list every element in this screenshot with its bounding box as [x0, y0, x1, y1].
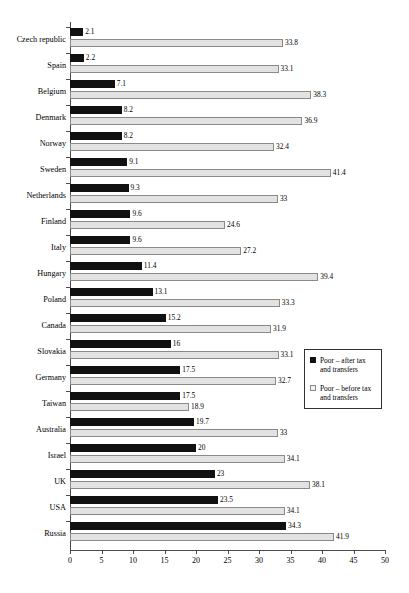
bar-before: 18.9	[70, 403, 189, 411]
bar-after: 7.1	[70, 80, 115, 88]
chart-row: Hungary11.439.4	[70, 261, 385, 287]
category-label: USA	[50, 504, 66, 512]
bar-after: 15.2	[70, 314, 166, 322]
bar-before: 36.9	[70, 117, 302, 125]
bar-value-label: 36.9	[304, 117, 317, 124]
legend-swatch-after	[310, 357, 316, 363]
value-axis-tick	[259, 550, 260, 554]
value-axis-tick-label: 20	[192, 557, 200, 565]
bar-value-label: 7.1	[117, 80, 126, 87]
bar-before: 31.9	[70, 325, 271, 333]
value-axis-tick	[133, 550, 134, 554]
bar-before: 33.1	[70, 65, 279, 73]
bar-value-label: 33.1	[281, 65, 294, 72]
category-label: Norway	[40, 140, 66, 148]
bar-value-label: 38.1	[312, 481, 325, 488]
value-axis-tick-label: 50	[381, 557, 389, 565]
value-axis-tick	[196, 550, 197, 554]
bar-before: 33.8	[70, 39, 283, 47]
bar-value-label: 33.3	[282, 299, 295, 306]
legend-entry: Poor – after tax and transfers	[310, 356, 377, 375]
bar-value-label: 19.7	[196, 418, 209, 425]
bar-value-label: 9.1	[129, 158, 138, 165]
value-axis-tick	[102, 550, 103, 554]
bar-value-label: 23	[217, 470, 224, 477]
chart-row: USA23.534.1	[70, 495, 385, 521]
bar-value-label: 31.9	[273, 325, 286, 332]
bar-value-label: 34.1	[287, 455, 300, 462]
category-label: Czech republic	[17, 36, 66, 44]
bar-value-label: 41.9	[336, 533, 349, 540]
bar-value-label: 24.6	[227, 221, 240, 228]
value-axis-tick-label: 15	[161, 557, 169, 565]
bar-value-label: 32.7	[278, 377, 291, 384]
bar-value-label: 38.3	[313, 91, 326, 98]
bar-value-label: 33	[280, 195, 287, 202]
bar-after: 2.1	[70, 28, 83, 36]
bar-value-label: 27.2	[243, 247, 256, 254]
value-axis-tick	[70, 550, 71, 554]
bar-before: 39.4	[70, 273, 318, 281]
bar-before: 38.3	[70, 91, 311, 99]
value-axis-tick-label: 35	[287, 557, 295, 565]
bar-before: 24.6	[70, 221, 225, 229]
category-label: Italy	[51, 244, 66, 252]
chart-row: Belgium7.138.3	[70, 79, 385, 105]
legend-entry: Poor – before tax and transfers	[310, 384, 377, 403]
category-label: Netherlands	[26, 192, 66, 200]
bar-value-label: 9.6	[132, 210, 141, 217]
chart-row: Poland13.133.3	[70, 287, 385, 313]
bar-after: 16	[70, 340, 171, 348]
value-axis-tick-label: 10	[129, 557, 137, 565]
chart-row: Denmark8.236.9	[70, 105, 385, 131]
bar-before: 33.3	[70, 299, 280, 307]
chart-row: Czech republic2.133.8	[70, 27, 385, 53]
bar-before: 33	[70, 429, 278, 437]
bar-value-label: 41.4	[333, 169, 346, 176]
legend-label: Poor – after tax and transfers	[320, 356, 366, 374]
bar-after: 17.5	[70, 366, 180, 374]
value-axis-tick-label: 40	[318, 557, 326, 565]
value-axis-tick-label: 5	[100, 557, 104, 565]
bar-value-label: 9.6	[132, 236, 141, 243]
bar-value-label: 33.1	[281, 351, 294, 358]
category-label: Germany	[36, 374, 66, 382]
chart-canvas: Czech republic2.133.8Spain2.233.1Belgium…	[0, 0, 409, 593]
value-axis-tick-label: 45	[350, 557, 358, 565]
bar-value-label: 13.1	[155, 288, 168, 295]
category-label: Russia	[44, 530, 66, 538]
bar-value-label: 20	[198, 444, 205, 451]
bar-value-label: 34.1	[287, 507, 300, 514]
bar-before: 32.4	[70, 143, 274, 151]
chart-row: UK2338.1	[70, 469, 385, 495]
chart-row: Canada15.231.9	[70, 313, 385, 339]
chart-legend: Poor – after tax and transfersPoor – bef…	[304, 349, 382, 409]
chart-row: Spain2.233.1	[70, 53, 385, 79]
value-axis-tick-label: 0	[68, 557, 72, 565]
bar-after: 34.3	[70, 522, 286, 530]
chart-row: Sweden9.141.4	[70, 157, 385, 183]
bar-value-label: 11.4	[144, 262, 157, 269]
bar-after: 8.2	[70, 132, 122, 140]
category-label: Taiwan	[42, 400, 66, 408]
bar-value-label: 16	[173, 340, 180, 347]
bar-after: 9.6	[70, 236, 130, 244]
chart-row: Israel2034.1	[70, 443, 385, 469]
chart-row: Finland9.624.6	[70, 209, 385, 235]
value-axis-tick	[228, 550, 229, 554]
bar-value-label: 39.4	[320, 273, 333, 280]
plot-area: Czech republic2.133.8Spain2.233.1Belgium…	[70, 26, 385, 546]
value-axis-tick	[291, 550, 292, 554]
bar-value-label: 8.2	[124, 132, 133, 139]
value-axis-tick	[354, 550, 355, 554]
category-label: Israel	[48, 452, 66, 460]
bar-after: 9.1	[70, 158, 127, 166]
category-label: Spain	[47, 62, 66, 70]
bar-value-label: 8.2	[124, 106, 133, 113]
bar-value-label: 9.3	[131, 184, 140, 191]
bar-before: 34.1	[70, 507, 285, 515]
bar-after: 23	[70, 470, 215, 478]
bar-after: 19.7	[70, 418, 194, 426]
category-label: Australia	[36, 426, 66, 434]
bar-before: 41.4	[70, 169, 331, 177]
